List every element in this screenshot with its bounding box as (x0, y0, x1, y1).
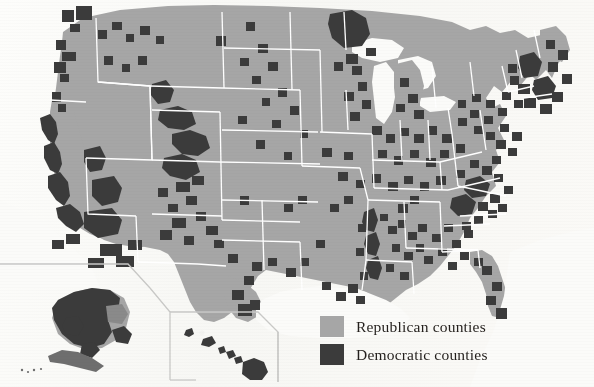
legend-item-democratic: Democratic counties (320, 344, 488, 365)
map-legend: Republican counties Democratic counties (320, 316, 488, 365)
legend-swatch-democratic (320, 344, 344, 365)
us-county-map (0, 0, 594, 387)
figure-canvas: Republican counties Democratic counties (0, 0, 594, 387)
legend-label-democratic: Democratic counties (356, 347, 488, 363)
hawaii-inset (184, 328, 268, 380)
alaska-inset (21, 288, 132, 373)
legend-label-republican: Republican counties (356, 319, 486, 335)
legend-swatch-republican (320, 316, 344, 337)
legend-item-republican: Republican counties (320, 316, 488, 337)
